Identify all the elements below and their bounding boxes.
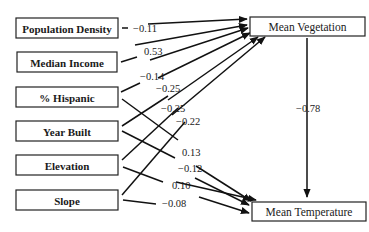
path-line-segment-slope-temp [123,200,156,204]
path-arrow-elev-veg [168,37,258,100]
coefficient-hisp-veg: −0.14 [140,71,165,82]
node-veg: Mean Vegetation [250,17,365,36]
path-arrow-slope-temp [199,197,249,213]
node-label: Mean Temperature [266,206,353,219]
node-label: Year Built [43,126,91,138]
node-hisp: % Hispanic [16,87,118,107]
coefficient-veg-temp: −0.78 [296,103,320,114]
node-label: % Hispanic [39,92,94,104]
path-line-segment-inc-veg [121,57,137,62]
path-diagram: −0.110.53−0.14−0.25−0.25−0.220.13−0.120.… [0,0,369,232]
node-label: Slope [54,195,80,207]
node-pop: Population Density [16,18,118,38]
node-year: Year Built [16,121,118,141]
coefficient-year-temp: −0.12 [178,163,202,174]
coefficient-elev-temp: 0.10 [172,180,190,191]
coefficient-slope-veg: −0.22 [176,116,200,127]
coefficient-pop-veg: −0.11 [133,23,157,34]
node-inc: Median Income [17,52,117,72]
path-arrow-pop-veg [148,19,247,24]
node-label: Population Density [22,23,112,35]
node-label: Mean Vegetation [268,21,346,34]
coefficient-hisp-temp: 0.13 [182,147,200,158]
path-line-segment-hisp-veg [121,83,140,92]
node-label: Median Income [30,57,104,69]
coefficient-elev-veg: −0.25 [161,103,185,114]
path-line-segment-elev-temp [123,167,163,182]
path-arrow-year-veg [158,33,250,78]
coefficient-inc-veg: 0.53 [144,46,162,57]
node-temp: Mean Temperature [252,202,366,221]
coefficient-year-veg: −0.25 [156,83,180,94]
coefficient-slope-temp: −0.08 [162,198,186,209]
node-slope: Slope [16,190,118,210]
node-label: Elevation [45,160,90,172]
node-elev: Elevation [16,155,118,175]
path-arrow-year-temp [196,166,251,201]
